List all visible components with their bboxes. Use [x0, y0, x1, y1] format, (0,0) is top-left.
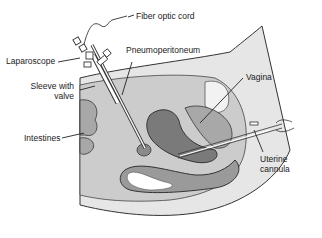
label-intestines: Intestines — [24, 133, 60, 143]
laparoscope-head — [73, 37, 111, 67]
label-uterine-line2: cannula — [260, 164, 290, 174]
label-uterine-line1: Uterine — [260, 154, 290, 164]
pelvic-diagram — [0, 0, 322, 238]
label-fiber-optic-cord: Fiber optic cord — [136, 11, 195, 21]
label-sleeve-line1: Sleeve with — [26, 81, 74, 91]
label-laparoscope: Laparoscope — [6, 56, 55, 66]
label-sleeve-with-valve: Sleeve with valve — [26, 81, 74, 101]
label-sleeve-line2: valve — [26, 91, 74, 101]
fiber-optic-cord — [84, 16, 127, 44]
label-pneumoperitoneum: Pneumoperitoneum — [126, 45, 200, 55]
label-uterine-cannula: Uterine cannula — [260, 154, 290, 174]
label-vagina: Vagina — [246, 72, 272, 82]
